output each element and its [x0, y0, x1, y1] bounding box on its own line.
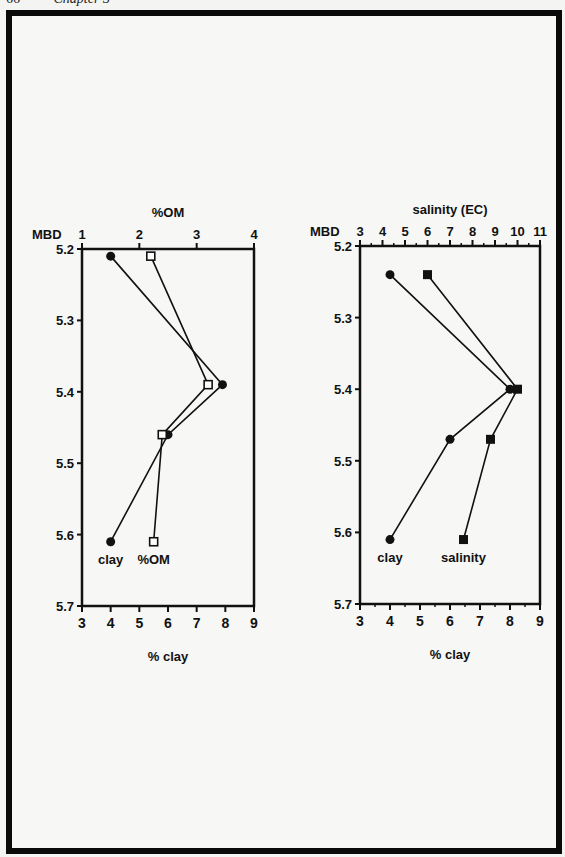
salinity-chart-series-line-salinity: [428, 275, 518, 540]
om-chart-series-annotation: %OM: [137, 552, 170, 567]
om-chart-y-tick-label: 5.3: [56, 313, 74, 328]
salinity-chart-top-axis-label: salinity (EC): [412, 202, 487, 217]
om-chart-y-tick-label: 5.5: [56, 456, 74, 471]
salinity-chart-top-tick-label: 7: [446, 224, 453, 239]
om-chart-top-tick-label: 4: [250, 227, 258, 242]
salinity-chart-series-line-clay: [390, 275, 510, 540]
salinity-chart-top-tick-label: 9: [491, 224, 498, 239]
om-chart-bottom-tick-label: 6: [164, 615, 172, 631]
om-chart-top-tick-label: 3: [193, 227, 200, 242]
om-chart-top-axis-label: %OM: [152, 205, 185, 220]
om-chart-bottom-tick-label: 7: [193, 615, 201, 631]
figure-charts: 5.25.35.45.55.65.7MBD1234%OM3456789% cla…: [0, 0, 565, 857]
salinity-chart-top-tick-label: 10: [510, 224, 524, 239]
salinity-chart-bottom-tick-label: 7: [476, 613, 484, 629]
salinity-chart-top-tick-label: 6: [424, 224, 431, 239]
salinity-chart-top-tick-label: 11: [533, 224, 547, 239]
salinity-chart-y-tick-label: 5.7: [334, 597, 352, 612]
om-chart-y-axis-label: MBD: [32, 227, 62, 242]
salinity-chart-top-tick-label: 4: [379, 224, 387, 239]
salinity-chart-top-tick-label: 8: [469, 224, 476, 239]
filled-square-marker: [513, 385, 522, 394]
om-chart-series-line-pct-om: [151, 256, 208, 542]
salinity-chart-y-tick-label: 5.5: [334, 454, 352, 469]
filled-square-marker: [459, 535, 468, 544]
open-square-marker: [150, 538, 158, 546]
filled-square-marker: [423, 270, 432, 279]
filled-square-marker: [486, 435, 495, 444]
open-square-marker: [158, 431, 166, 439]
om-chart-bottom-axis-label: % clay: [148, 649, 189, 664]
om-chart-bottom-tick-label: 9: [250, 615, 258, 631]
salinity-chart-bottom-tick-label: 4: [386, 613, 394, 629]
om-chart-y-tick-label: 5.7: [56, 599, 74, 614]
salinity-chart-top-tick-label: 5: [401, 224, 408, 239]
filled-circle-marker: [106, 252, 115, 261]
filled-circle-marker: [386, 270, 395, 279]
filled-circle-marker: [106, 537, 115, 546]
om-chart-y-tick-label: 5.2: [56, 242, 74, 257]
salinity-chart-y-tick-label: 5.2: [334, 239, 352, 254]
om-chart-series-line-clay: [111, 256, 223, 542]
salinity-chart-bottom-tick-label: 5: [416, 613, 424, 629]
filled-circle-marker: [218, 380, 227, 389]
salinity-chart-series-annotation: clay: [377, 550, 403, 565]
salinity-chart-y-tick-label: 5.3: [334, 311, 352, 326]
om-chart-top-tick-label: 2: [136, 227, 143, 242]
om-chart-y-tick-label: 5.4: [56, 385, 75, 400]
filled-circle-marker: [446, 435, 455, 444]
om-chart-bottom-tick-label: 8: [221, 615, 229, 631]
salinity-chart-bottom-tick-label: 8: [506, 613, 514, 629]
om-chart-bottom-tick-label: 5: [135, 615, 143, 631]
om-chart-bottom-tick-label: 3: [78, 615, 86, 631]
salinity-chart-bottom-tick-label: 3: [356, 613, 364, 629]
open-square-marker: [147, 252, 155, 260]
om-chart-top-tick-label: 1: [78, 227, 85, 242]
salinity-chart-y-tick-label: 5.6: [334, 525, 352, 540]
salinity-chart-y-tick-label: 5.4: [334, 382, 353, 397]
om-chart-y-tick-label: 5.6: [56, 528, 74, 543]
salinity-chart-top-tick-label: 3: [356, 224, 363, 239]
om-chart-bottom-tick-label: 4: [107, 615, 115, 631]
salinity-chart-bottom-axis-label: % clay: [430, 647, 471, 662]
salinity-chart-bottom-tick-label: 6: [446, 613, 454, 629]
salinity-chart-series-annotation: salinity: [441, 550, 487, 565]
open-square-marker: [204, 381, 212, 389]
om-chart-series-annotation: clay: [98, 552, 124, 567]
salinity-chart-y-axis-label: MBD: [310, 224, 340, 239]
salinity-chart-bottom-tick-label: 9: [536, 613, 544, 629]
filled-circle-marker: [386, 535, 395, 544]
